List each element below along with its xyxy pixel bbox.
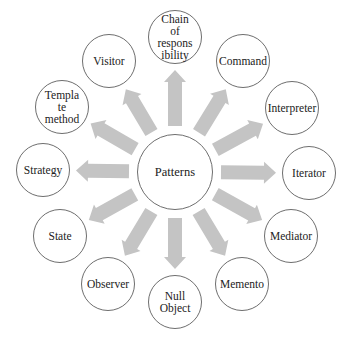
arrow-icon — [164, 70, 186, 126]
arrow-icon — [85, 114, 140, 159]
node-chain-of-responsibility: Chain of respons ibility — [148, 10, 202, 64]
node-visitor: Visitor — [82, 34, 136, 88]
node-label: Command — [219, 55, 267, 67]
node-label: Templa te method — [45, 89, 80, 125]
node-interpreter: Interpreter — [265, 81, 319, 135]
node-template-method: Templa te method — [35, 80, 89, 134]
node-label: Observer — [87, 278, 129, 290]
node-label: Mediator — [270, 230, 312, 242]
patterns-diagram: Patterns Chain of respons ibility Comman… — [0, 0, 350, 345]
node-iterator: Iterator — [282, 146, 336, 200]
node-label: State — [49, 230, 72, 242]
arrow-icon — [210, 185, 267, 230]
node-label: Interpreter — [268, 102, 317, 114]
node-command: Command — [216, 34, 270, 88]
node-null-object: Null Object — [148, 275, 202, 329]
node-strategy: Strategy — [16, 143, 70, 197]
node-observer: Observer — [81, 257, 135, 311]
arrow-icon — [83, 185, 140, 230]
arrow-icon — [116, 84, 161, 138]
arrow-icon — [164, 218, 186, 269]
node-label: Strategy — [24, 164, 62, 176]
arrow-icon — [210, 114, 268, 159]
node-label: Iterator — [292, 167, 326, 179]
arrow-icon — [190, 83, 235, 138]
center-node-patterns: Patterns — [137, 134, 213, 210]
arrow-icon — [116, 206, 161, 261]
arrow-icon — [221, 161, 276, 183]
node-memento: Memento — [215, 257, 269, 311]
arrow-icon — [76, 160, 129, 183]
node-label: Visitor — [93, 55, 124, 67]
node-label: Null Object — [160, 290, 191, 314]
node-state: State — [33, 209, 87, 263]
node-label: Memento — [220, 278, 264, 290]
arrow-icon — [189, 206, 234, 261]
node-mediator: Mediator — [264, 209, 318, 263]
node-label: Chain of respons ibility — [157, 13, 192, 61]
center-label: Patterns — [155, 166, 195, 178]
